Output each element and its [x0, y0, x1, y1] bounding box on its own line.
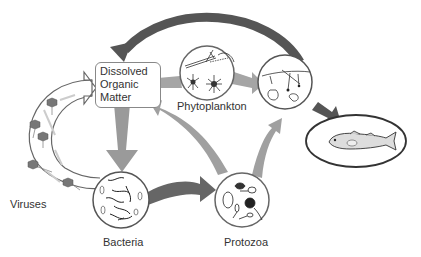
arrow-viruses-to-dom: [28, 72, 100, 190]
viruses-label: Viruses: [10, 198, 46, 210]
diagram-canvas: [0, 0, 421, 257]
protozoa-label: Protozoa: [224, 236, 268, 248]
dom-label-line3: Matter: [100, 91, 156, 104]
fish-ellipse: [306, 115, 406, 167]
microbial-loop-diagram: Dissolved Organic Matter Phytoplankton V…: [0, 0, 421, 257]
protozoa-circle: [215, 173, 269, 227]
phytoplankton-circle: [180, 46, 234, 100]
dissolved-organic-matter-box: Dissolved Organic Matter: [95, 62, 161, 108]
arrow-protozoa-to-zooplankton: [252, 118, 282, 178]
phytoplankton-label: Phytoplankton: [177, 100, 247, 112]
bacteria-label: Bacteria: [103, 236, 143, 248]
bacteria-circle: [93, 172, 149, 228]
arrow-dom-to-bacteria: [106, 104, 138, 172]
zooplankton-circle: [258, 55, 312, 109]
dom-label-line1: Dissolved: [100, 65, 156, 78]
arrow-bacteria-to-protozoa: [148, 176, 216, 205]
dom-label-line2: Organic: [100, 78, 156, 91]
